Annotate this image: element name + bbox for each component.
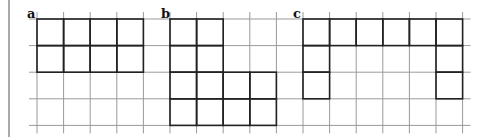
figure-a-cell <box>117 46 144 73</box>
figure-a-cell <box>90 46 117 73</box>
figure-b-cell <box>197 72 224 99</box>
figure-a-cell <box>37 19 64 46</box>
figure-b-cell <box>197 46 224 73</box>
figure-a-cell <box>64 19 91 46</box>
figure-c-cell <box>436 19 463 46</box>
figure-a-cell <box>90 19 117 46</box>
figure-c-cell <box>383 19 410 46</box>
figure-a-cell <box>37 46 64 73</box>
figure-b-cell <box>197 19 224 46</box>
figure-c-cell <box>303 46 330 73</box>
figure-b-cell <box>223 72 250 99</box>
figure-c-cell <box>330 19 357 46</box>
figure-b-cell <box>170 72 197 99</box>
figure-c-cell <box>436 46 463 73</box>
figure-c-cell <box>409 19 436 46</box>
figure-label-b: b <box>161 7 170 20</box>
figure-b-cell <box>250 99 277 126</box>
figure-b-cell <box>170 19 197 46</box>
figure-c-cell <box>303 19 330 46</box>
figure-c-cell <box>356 19 383 46</box>
figure-a-cell <box>117 19 144 46</box>
figure-b-cell <box>170 46 197 73</box>
figure-label-a: a <box>27 7 35 20</box>
figure-b-cell <box>170 99 197 126</box>
figure-c-cell <box>436 72 463 99</box>
figure-b-cell <box>250 72 277 99</box>
figure-a-cell <box>64 46 91 73</box>
grid-canvas <box>0 0 492 137</box>
figure-label-c: c <box>293 7 301 20</box>
figure-b-cell <box>223 99 250 126</box>
figure-b-cell <box>197 99 224 126</box>
grid-diagram: a b c <box>0 0 492 137</box>
figure-c-cell <box>303 72 330 99</box>
